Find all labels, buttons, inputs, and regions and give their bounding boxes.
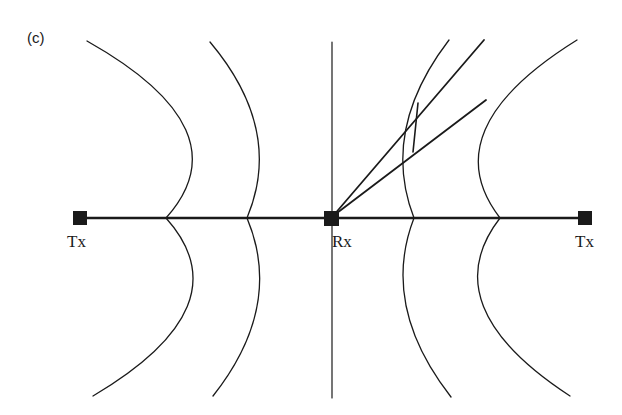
ray-lower <box>333 100 486 216</box>
panel-label: (c) <box>27 30 45 45</box>
tx-right-label: Tx <box>575 233 594 250</box>
ray-upper <box>333 40 484 216</box>
tx-left-label: Tx <box>67 233 86 250</box>
rx-label: Rx <box>332 233 352 250</box>
ray-connector <box>413 103 418 152</box>
tx-right-node <box>578 211 592 225</box>
tx-left-node <box>73 211 87 225</box>
diagram-canvas <box>0 0 622 415</box>
rx-node <box>324 211 339 226</box>
